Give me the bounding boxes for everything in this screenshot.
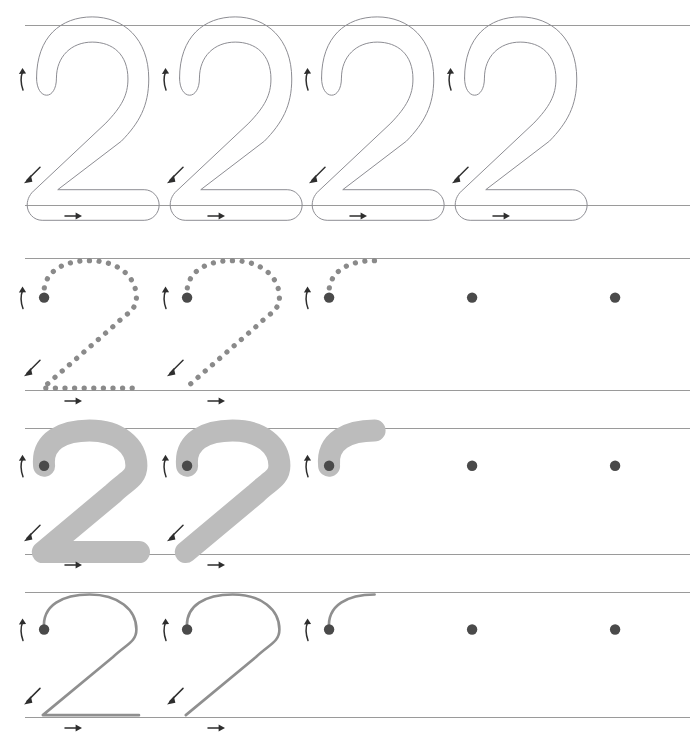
up-arrow-head [162,455,169,461]
up-arrow-head [19,455,26,461]
tracing-item[interactable] [304,431,375,477]
tracing-item[interactable] [19,261,139,405]
tracing-item[interactable] [467,461,477,471]
tracing-item[interactable] [304,595,375,641]
start-dot [610,292,620,302]
right-arrow-head [76,725,82,732]
up-arrow-shaft [21,459,23,477]
up-arrow-shaft [306,623,308,641]
up-arrow-icon [304,619,311,641]
tracing-item[interactable] [467,624,477,634]
up-arrow-icon [19,287,26,309]
numeral-guide-stroke [329,595,375,630]
tracing-item[interactable] [19,431,139,569]
up-arrow-head [19,68,26,74]
numeral-guide-stroke [43,261,139,388]
up-arrow-head [162,68,169,74]
up-arrow-head [304,287,311,293]
right-arrow-icon [65,213,82,220]
start-dot [39,292,49,302]
tracing-item[interactable] [610,461,620,471]
numeral-guide-stroke [329,261,375,298]
start-dot [467,461,477,471]
up-arrow-icon [304,455,311,477]
down-left-arrow-icon [167,688,183,704]
tracing-item[interactable] [610,292,620,302]
up-arrow-shaft [21,72,23,90]
tracing-item[interactable] [162,261,279,405]
up-arrow-icon [162,619,169,641]
start-dot [324,624,334,634]
numeral-guide-stroke [186,261,280,388]
numeral-outline [27,17,159,220]
worksheet-row-1 [19,17,690,220]
start-dot [610,461,620,471]
up-arrow-shaft [306,72,308,90]
numeral-guide-stroke [186,595,280,716]
numeral-guide-stroke [43,595,139,716]
worksheet-row-3 [19,428,690,568]
up-arrow-shaft [449,72,451,90]
numeral-guide-stroke [329,431,375,466]
up-arrow-head [447,68,454,74]
right-arrow-head [504,213,510,220]
up-arrow-icon [19,68,26,90]
up-arrow-icon [304,68,311,90]
right-arrow-icon [493,213,510,220]
numeral-outline [455,17,587,220]
up-arrow-head [304,619,311,625]
up-arrow-shaft [306,291,308,309]
tracing-item[interactable] [162,17,302,220]
worksheet-canvas [0,0,696,733]
tracing-item[interactable] [447,17,587,220]
down-left-arrow-icon [24,360,40,376]
right-arrow-icon [208,398,225,405]
tracing-item[interactable] [19,595,139,732]
up-arrow-icon [162,455,169,477]
worksheet-row-4 [19,592,690,731]
start-dot [610,624,620,634]
tracing-item[interactable] [467,292,477,302]
down-left-arrow-icon [309,167,325,183]
up-arrow-head [304,455,311,461]
right-arrow-icon [208,725,225,732]
down-left-arrow-icon [167,360,183,376]
start-dot [39,461,49,471]
tracing-item[interactable] [610,624,620,634]
numeral-guide-stroke [43,431,139,553]
up-arrow-shaft [306,459,308,477]
up-arrow-icon [304,287,311,309]
up-arrow-shaft [21,291,23,309]
up-arrow-head [19,287,26,293]
tracing-item[interactable] [19,17,159,220]
up-arrow-icon [19,619,26,641]
start-dot [182,624,192,634]
start-dot [39,624,49,634]
right-arrow-head [361,213,367,220]
right-arrow-head [76,213,82,220]
tracing-worksheet [0,0,696,733]
down-left-arrow-icon [24,688,40,704]
right-arrow-head [219,398,225,405]
right-arrow-icon [208,562,225,569]
start-dot [182,461,192,471]
right-arrow-icon [350,213,367,220]
start-dot [467,624,477,634]
right-arrow-icon [208,213,225,220]
up-arrow-head [162,619,169,625]
tracing-item[interactable] [304,17,444,220]
down-left-arrow-icon [452,167,468,183]
numeral-outline [312,17,444,220]
tracing-item[interactable] [304,261,375,309]
numeral-outline [170,17,302,220]
tracing-item[interactable] [162,431,279,569]
up-arrow-shaft [164,459,166,477]
down-left-arrow-icon [167,167,183,183]
up-arrow-shaft [164,72,166,90]
up-arrow-icon [19,455,26,477]
start-dot [324,292,334,302]
right-arrow-head [219,725,225,732]
up-arrow-icon [447,68,454,90]
tracing-item[interactable] [162,595,279,732]
up-arrow-shaft [164,291,166,309]
